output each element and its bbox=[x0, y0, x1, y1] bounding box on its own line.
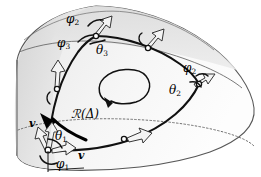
label-phi2-top: φ2 bbox=[66, 13, 79, 27]
diagram-canvas bbox=[0, 0, 261, 177]
node-bottom-mid bbox=[121, 136, 126, 141]
label-holonomy: ℛ(Δ) bbox=[71, 108, 99, 120]
node-top-right bbox=[145, 45, 150, 50]
label-theta2: θ2 bbox=[169, 84, 181, 98]
label-phi3: φ3 bbox=[57, 37, 70, 51]
label-phi2-right: φ2 bbox=[183, 62, 196, 76]
node-top-vertex bbox=[93, 33, 98, 38]
label-theta1: θ1 bbox=[55, 130, 67, 144]
label-theta3: θ3 bbox=[96, 44, 108, 58]
label-phi1: φ1 bbox=[56, 158, 69, 172]
label-vector-v: v bbox=[78, 150, 84, 161]
holonomy-diagram: φ2 φ3 θ3 φ2 θ2 ℛ(Δ) θ1 φ1 v v′ bbox=[0, 0, 261, 177]
label-vector-v-transported: v′ bbox=[29, 118, 37, 131]
node-left-mid bbox=[54, 86, 59, 91]
